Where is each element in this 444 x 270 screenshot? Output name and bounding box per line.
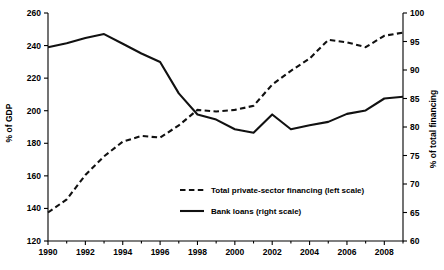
y-axis-right-tick-label: 75 — [410, 151, 420, 161]
y-axis-left-tick-label: 160 — [27, 171, 41, 181]
x-axis-tick-label: 1996 — [151, 247, 170, 257]
x-axis-tick-label: 2006 — [337, 247, 356, 257]
x-axis-tick-label: 2008 — [375, 247, 394, 257]
x-axis-tick-label: 2000 — [225, 247, 244, 257]
y-axis-right-tick-label: 70 — [410, 179, 420, 189]
y-axis-right-tick-label: 85 — [410, 94, 420, 104]
y-axis-left-tick-label: 120 — [27, 236, 41, 246]
y-axis-right-tick-label: 60 — [410, 236, 420, 246]
x-axis-tick-label: 1998 — [188, 247, 207, 257]
x-axis-tick-label: 2002 — [263, 247, 282, 257]
y-axis-left-tick-label: 240 — [27, 41, 41, 51]
y-axis-left-tick-label: 180 — [27, 138, 41, 148]
y-axis-right-tick-label: 90 — [410, 65, 420, 75]
chart-legend: Total private-sector financing (left sca… — [180, 186, 365, 216]
x-axis-tick-label: 1990 — [39, 247, 58, 257]
y-axis-right-tick-label: 65 — [410, 208, 420, 218]
y-axis-left-tick-label: 200 — [27, 106, 41, 116]
tick-labels-group: 1201401601802002202402606065707580859095… — [27, 8, 425, 257]
y-axis-left-tick-label: 260 — [27, 8, 41, 18]
chart-plot-area: 1201401601802002202402606065707580859095… — [0, 0, 444, 270]
x-axis-tick-label: 1994 — [113, 247, 132, 257]
y-axis-right-tick-label: 100 — [410, 8, 424, 18]
x-axis-tick-label: 1992 — [76, 247, 95, 257]
y-axis-right-tick-label: 80 — [410, 122, 420, 132]
y-axis-left-tick-label: 140 — [27, 203, 41, 213]
x-axis-tick-label: 2004 — [300, 247, 319, 257]
legend-label: Bank loans (right scale) — [211, 207, 302, 216]
y-axis-right-tick-label: 95 — [410, 37, 420, 47]
chart-figure: % of GDP % of total financing 1201401601… — [0, 0, 444, 270]
legend-label: Total private-sector financing (left sca… — [211, 186, 365, 195]
y-axis-left-tick-label: 220 — [27, 73, 41, 83]
data-series-line — [48, 34, 403, 133]
